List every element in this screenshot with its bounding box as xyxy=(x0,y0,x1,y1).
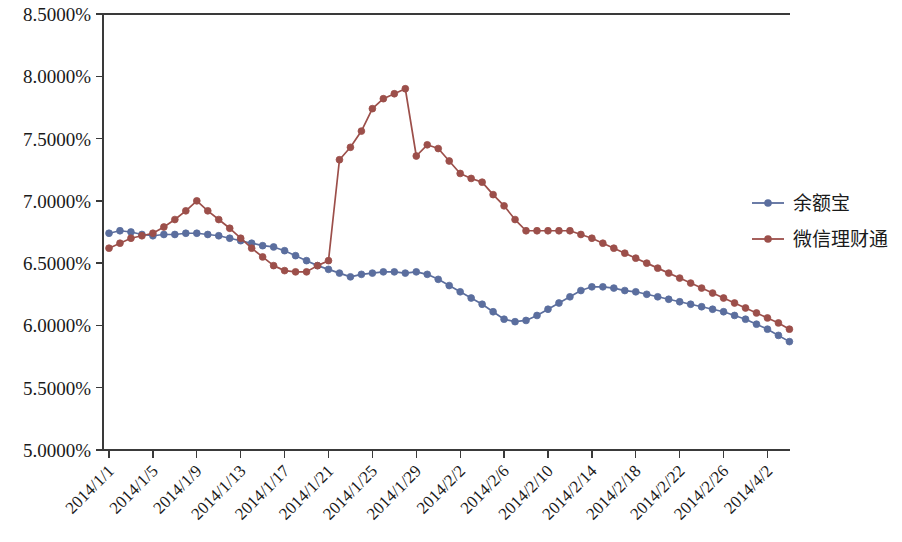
data-point xyxy=(248,245,255,252)
data-point xyxy=(742,305,749,312)
data-point xyxy=(599,283,606,290)
data-point xyxy=(226,235,233,242)
data-point xyxy=(643,260,650,267)
data-point xyxy=(501,202,508,209)
data-point xyxy=(171,231,178,238)
y-axis-ticks: 5.0000%5.5000%6.0000%6.5000%7.0000%7.500… xyxy=(23,4,103,461)
data-point xyxy=(215,216,222,223)
data-point xyxy=(106,230,113,237)
data-point xyxy=(764,315,771,322)
data-point xyxy=(281,247,288,254)
y-tick-label: 5.5000% xyxy=(23,378,91,399)
data-point xyxy=(424,271,431,278)
data-point xyxy=(281,267,288,274)
data-point xyxy=(380,95,387,102)
data-point xyxy=(709,290,716,297)
y-tick-label: 8.0000% xyxy=(23,66,91,87)
data-point xyxy=(512,216,519,223)
y-tick-label: 7.0000% xyxy=(23,191,91,212)
legend-marker-icon xyxy=(764,235,772,243)
data-point xyxy=(588,283,595,290)
data-point xyxy=(665,270,672,277)
data-point xyxy=(742,316,749,323)
data-point xyxy=(468,295,475,302)
data-point xyxy=(226,225,233,232)
data-point xyxy=(435,145,442,152)
legend-item-licaitong[interactable]: 微信理财通 xyxy=(752,229,888,250)
data-point xyxy=(578,287,585,294)
data-point xyxy=(117,240,124,247)
data-point xyxy=(545,227,552,234)
data-point xyxy=(117,227,124,234)
data-point xyxy=(292,252,299,259)
data-point xyxy=(786,326,793,333)
data-point xyxy=(160,224,167,231)
data-point xyxy=(753,321,760,328)
data-point xyxy=(479,179,486,186)
data-point xyxy=(665,296,672,303)
data-point xyxy=(380,268,387,275)
data-point xyxy=(490,308,497,315)
data-point xyxy=(358,128,365,135)
data-point xyxy=(720,308,727,315)
y-tick-label: 6.0000% xyxy=(23,315,91,336)
data-point xyxy=(610,285,617,292)
y-tick-label: 8.5000% xyxy=(23,4,91,25)
data-point xyxy=(512,318,519,325)
data-point xyxy=(128,235,135,242)
data-point xyxy=(764,326,771,333)
data-point xyxy=(106,245,113,252)
data-point xyxy=(654,265,661,272)
data-point xyxy=(369,105,376,112)
data-point xyxy=(336,270,343,277)
data-point xyxy=(292,268,299,275)
data-point xyxy=(402,270,409,277)
data-point xyxy=(632,255,639,262)
data-point xyxy=(534,312,541,319)
data-point xyxy=(325,257,332,264)
data-point xyxy=(676,275,683,282)
data-point xyxy=(270,244,277,251)
data-point xyxy=(446,282,453,289)
data-point xyxy=(347,273,354,280)
data-point xyxy=(534,227,541,234)
data-point xyxy=(457,170,464,177)
data-point xyxy=(698,285,705,292)
data-point xyxy=(204,231,211,238)
data-point xyxy=(193,197,200,204)
data-point xyxy=(435,276,442,283)
data-point xyxy=(150,230,157,237)
legend-label: 微信理财通 xyxy=(793,229,888,250)
data-point xyxy=(775,332,782,339)
data-point xyxy=(259,242,266,249)
data-point xyxy=(424,141,431,148)
data-point xyxy=(753,310,760,317)
line-chart: 5.0000%5.5000%6.0000%6.5000%7.0000%7.500… xyxy=(0,0,902,542)
chart-container: 5.0000%5.5000%6.0000%6.5000%7.0000%7.500… xyxy=(0,0,902,542)
data-point xyxy=(775,320,782,327)
data-point xyxy=(654,293,661,300)
legend-item-yuebao[interactable]: 余额宝 xyxy=(752,193,850,214)
data-point xyxy=(501,316,508,323)
data-point xyxy=(347,144,354,151)
data-point xyxy=(314,262,321,269)
data-point xyxy=(139,232,146,239)
data-point xyxy=(556,227,563,234)
data-point xyxy=(698,303,705,310)
legend-label: 余额宝 xyxy=(793,193,850,214)
data-point xyxy=(731,300,738,307)
legend-marker-icon xyxy=(764,199,772,207)
data-point xyxy=(182,230,189,237)
data-point xyxy=(786,338,793,345)
data-point xyxy=(556,300,563,307)
data-point xyxy=(545,306,552,313)
legend: 余额宝微信理财通 xyxy=(752,193,888,250)
data-point xyxy=(303,268,310,275)
data-point xyxy=(259,254,266,261)
data-point xyxy=(567,227,574,234)
data-point xyxy=(588,235,595,242)
data-point xyxy=(237,235,244,242)
y-tick-label: 7.5000% xyxy=(23,129,91,150)
data-point xyxy=(720,295,727,302)
data-point xyxy=(578,231,585,238)
